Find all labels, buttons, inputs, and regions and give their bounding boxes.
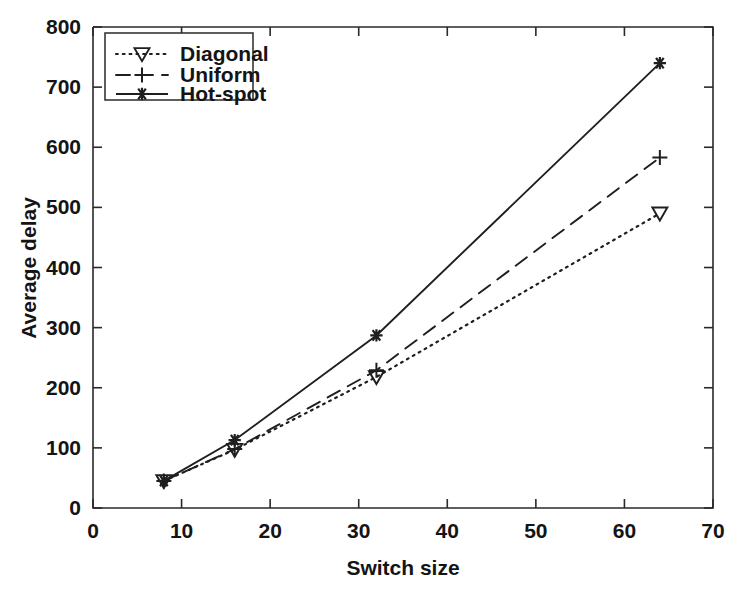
- series-diagonal: [156, 208, 667, 489]
- x-tick-label: 60: [613, 519, 636, 542]
- x-tick-label: 30: [347, 519, 370, 542]
- series-path: [164, 63, 660, 481]
- y-tick-label: 600: [46, 135, 81, 158]
- x-tick-label: 10: [170, 519, 193, 542]
- series-path: [164, 157, 660, 480]
- legend-label: Diagonal: [180, 42, 269, 65]
- y-tick-label: 800: [46, 15, 81, 38]
- legend-label: Hot-spot: [180, 82, 266, 105]
- chart-legend: DiagonalUniformHot-spot: [105, 33, 269, 105]
- x-tick-label: 70: [701, 519, 724, 542]
- data-point-marker: [229, 434, 241, 446]
- line-chart-canvas: 010203040506070 010020030040050060070080…: [0, 0, 750, 591]
- x-tick-label: 50: [524, 519, 547, 542]
- y-tick-label: 200: [46, 376, 81, 399]
- y-tick-label: 0: [69, 496, 81, 519]
- x-tick-label: 20: [258, 519, 281, 542]
- data-point-marker: [370, 329, 382, 341]
- y-tick-label: 500: [46, 195, 81, 218]
- chart-figure: 010203040506070 010020030040050060070080…: [0, 0, 750, 591]
- series-hot-spot: [158, 57, 666, 487]
- x-axis-title: Switch size: [346, 556, 459, 579]
- data-point-marker: [652, 208, 667, 221]
- y-axis-tick-labels: 0100200300400500600700800: [46, 15, 81, 519]
- y-tick-label: 300: [46, 316, 81, 339]
- x-tick-label: 0: [87, 519, 99, 542]
- data-point-marker: [652, 150, 667, 165]
- legend-marker-sample: [136, 88, 148, 100]
- y-tick-label: 700: [46, 75, 81, 98]
- data-series-layer: [156, 57, 667, 489]
- y-tick-label: 400: [46, 256, 81, 279]
- x-axis-tick-labels: 010203040506070: [87, 519, 725, 542]
- y-tick-label: 100: [46, 436, 81, 459]
- y-axis-title: Average delay: [17, 197, 40, 339]
- data-point-marker: [158, 475, 170, 487]
- x-tick-label: 40: [436, 519, 459, 542]
- data-point-marker: [654, 57, 666, 69]
